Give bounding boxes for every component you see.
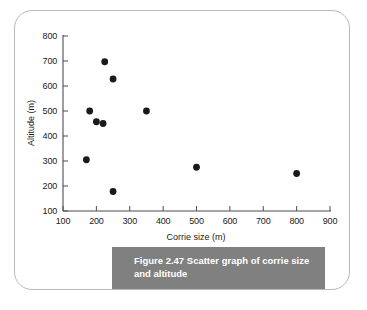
data-point xyxy=(93,118,100,125)
x-axis-title: Corrie size (m) xyxy=(166,232,225,242)
data-point xyxy=(143,108,150,115)
x-tick-label: 700 xyxy=(256,216,270,226)
y-tick-label: 600 xyxy=(29,81,57,91)
x-tick-label: 800 xyxy=(289,216,303,226)
figure-caption-band: Figure 2.47 Scatter graph of corrie size… xyxy=(112,247,325,289)
x-tick-label: 900 xyxy=(323,216,337,226)
x-tick-label: 400 xyxy=(156,216,170,226)
x-tick-label: 300 xyxy=(123,216,137,226)
data-point xyxy=(193,164,200,171)
data-point xyxy=(101,58,108,65)
x-tick-label: 500 xyxy=(189,216,203,226)
data-point xyxy=(110,188,117,195)
figure-caption-text: Figure 2.47 Scatter graph of corrie size… xyxy=(134,254,314,280)
x-tick-label: 600 xyxy=(223,216,237,226)
y-tick-label: 800 xyxy=(29,31,57,41)
data-point xyxy=(110,76,117,83)
data-point xyxy=(86,108,93,115)
data-point xyxy=(100,120,107,127)
y-tick-label: 300 xyxy=(29,156,57,166)
x-tick-label: 200 xyxy=(89,216,103,226)
y-tick-label: 700 xyxy=(29,56,57,66)
data-point xyxy=(293,170,300,177)
figure-container: 1002003004005006007008001002003004005006… xyxy=(0,0,367,310)
y-tick-label: 200 xyxy=(29,181,57,191)
x-tick-label: 100 xyxy=(56,216,70,226)
y-axis-title: Altitude (m) xyxy=(26,100,36,146)
y-tick-label: 100 xyxy=(29,206,57,216)
data-point xyxy=(83,156,90,163)
